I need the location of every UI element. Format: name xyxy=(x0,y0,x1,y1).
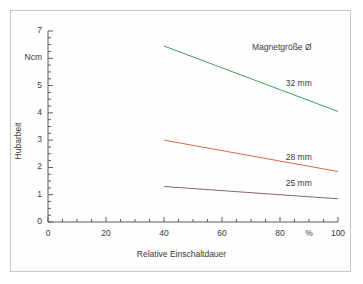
series-label-32-mm: 32 mm xyxy=(286,78,312,88)
x-tick-label: 40 xyxy=(144,228,184,238)
y-tick-label: 5 xyxy=(16,80,42,90)
legend-title: Magnetgröße Ø xyxy=(252,42,312,52)
series-label-25-mm: 25 mm xyxy=(286,178,312,188)
x-unit-label: % xyxy=(289,228,329,238)
y-tick-label: 0 xyxy=(16,216,42,226)
series-line-28-mm xyxy=(164,140,338,171)
x-axis-title: Relative Einschaltdauer xyxy=(0,249,363,259)
y-tick-label: 7 xyxy=(16,25,42,35)
series-line-25-mm xyxy=(164,187,338,199)
chart-figure: Magnetgröße Ø Relative Einschaltdauer Hu… xyxy=(0,0,363,284)
y-tick-label: 2 xyxy=(16,161,42,171)
y-tick-label: 3 xyxy=(16,134,42,144)
x-tick-label: 60 xyxy=(202,228,242,238)
series-label-28-mm: 28 mm xyxy=(286,152,312,162)
y-tick-label: 1 xyxy=(16,189,42,199)
y-tick-label: 4 xyxy=(16,107,42,117)
x-tick-label: 20 xyxy=(86,228,126,238)
y-unit-label: Ncm xyxy=(16,52,42,62)
series-line-32-mm xyxy=(164,46,338,111)
x-tick-label: 0 xyxy=(28,228,68,238)
